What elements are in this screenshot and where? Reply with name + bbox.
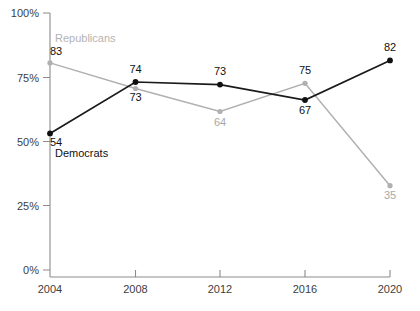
y-axis	[43, 13, 50, 270]
data-point-republicans-2020[interactable]	[387, 183, 392, 188]
data-point-democrats-2020[interactable]	[387, 58, 393, 64]
y-tick-label-50: 50%	[17, 136, 39, 148]
y-tick-label-25: 25%	[17, 200, 39, 212]
y-tick-label-0: 0%	[23, 264, 39, 276]
data-point-republicans-2012[interactable]	[217, 109, 222, 114]
data-point-democrats-2012[interactable]	[217, 82, 223, 88]
value-label-democrats-2008: 74	[129, 63, 141, 75]
y-tick-label-75: 75%	[17, 72, 39, 84]
data-point-republicans-2004[interactable]	[47, 60, 52, 65]
x-tick-label-2008: 2008	[123, 283, 147, 295]
value-label-democrats-2012: 73	[214, 65, 226, 77]
value-label-republicans-2004: 83	[50, 45, 62, 57]
x-tick-label-2004: 2004	[38, 283, 62, 295]
x-tick-label-2020: 2020	[378, 283, 402, 295]
value-label-democrats-2016: 67	[299, 104, 311, 116]
data-point-democrats-2016[interactable]	[302, 97, 308, 103]
data-point-republicans-2016[interactable]	[302, 81, 307, 86]
value-label-republicans-2008: 73	[129, 91, 141, 103]
value-label-republicans-2020: 35	[384, 189, 396, 201]
x-axis	[50, 270, 390, 277]
line-chart: 100% 75% 50% 25% 0% 2004 2008 2012 2016 …	[0, 0, 420, 311]
value-label-democrats-2020: 82	[384, 41, 396, 53]
x-tick-label-2012: 2012	[208, 283, 232, 295]
y-tick-label-100: 100%	[11, 7, 39, 19]
chart-svg: 100% 75% 50% 25% 0% 2004 2008 2012 2016 …	[0, 0, 420, 311]
data-point-democrats-2008[interactable]	[133, 79, 139, 85]
value-label-republicans-2012: 64	[214, 116, 226, 128]
x-tick-label-2016: 2016	[293, 283, 317, 295]
series-label-democrats: Democrats	[55, 147, 109, 159]
series-label-republicans: Republicans	[55, 32, 116, 44]
value-label-republicans-2016: 75	[299, 64, 311, 76]
